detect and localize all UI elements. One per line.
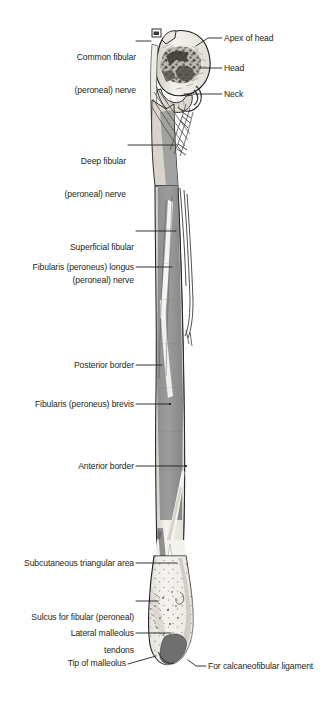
fibula-head-group bbox=[152, 29, 210, 96]
label-superficial-fibular-nerve-line2: (peroneal) nerve bbox=[20, 275, 134, 286]
anatomy-figure: Common fibular (peroneal) nerve Apex of … bbox=[0, 0, 321, 721]
label-sulcus-fibular-tendons-line1: Sulcus for fibular (peroneal) bbox=[6, 612, 134, 623]
label-tip-of-malleolus: Tip of malleolus bbox=[32, 658, 126, 669]
leader-calcaneofibular-ligament bbox=[188, 660, 206, 666]
label-deep-fibular-nerve: Deep fibular (peroneal) nerve bbox=[26, 134, 126, 222]
label-calcaneofibular-ligament: For calcaneofibular ligament bbox=[208, 661, 320, 672]
label-deep-fibular-nerve-line1: Deep fibular bbox=[26, 156, 126, 167]
label-sulcus-fibular-tendons-line2: tendons bbox=[6, 645, 134, 656]
lateral-malleolus-group bbox=[148, 556, 196, 668]
label-neck: Neck bbox=[224, 89, 284, 100]
label-head: Head bbox=[224, 63, 284, 74]
label-common-fibular-nerve-line1: Common fibular bbox=[26, 52, 136, 63]
fibula-shaft-group bbox=[155, 186, 193, 556]
label-apex-of-head: Apex of head bbox=[224, 33, 318, 44]
label-deep-fibular-nerve-line2: (peroneal) nerve bbox=[26, 189, 126, 200]
label-superficial-fibular-nerve-line1: Superficial fibular bbox=[20, 242, 134, 253]
label-anterior-border: Anterior border bbox=[34, 461, 134, 472]
label-fibularis-brevis: Fibularis (peroneus) brevis bbox=[12, 399, 134, 410]
label-lateral-malleolus: Lateral malleolus bbox=[30, 628, 134, 639]
label-fibularis-longus: Fibularis (peroneus) longus bbox=[12, 262, 134, 273]
label-common-fibular-nerve-line2: (peroneal) nerve bbox=[26, 85, 136, 96]
label-common-fibular-nerve: Common fibular (peroneal) nerve bbox=[26, 30, 136, 118]
label-posterior-border: Posterior border bbox=[30, 360, 134, 371]
label-subcutaneous-triangular-area: Subcutaneous triangular area bbox=[6, 558, 134, 569]
